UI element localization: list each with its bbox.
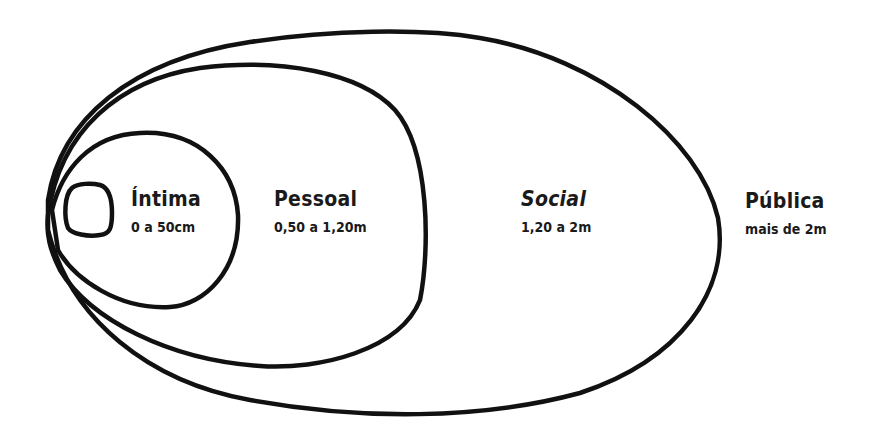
zone-title-intima: Íntima: [131, 187, 201, 211]
zone-label-publica: Pública mais de 2m: [745, 189, 836, 237]
zone-range-intima: 0 a 50cm: [131, 219, 201, 235]
self-center-shape: [65, 184, 112, 236]
zone-label-social: Social 1,20 a 2m: [521, 187, 599, 235]
zone-label-intima: Íntima 0 a 50cm: [131, 187, 209, 235]
zone-range-publica: mais de 2m: [745, 221, 827, 237]
zone-title-social: Social: [521, 187, 591, 211]
proxemics-diagram: Íntima 0 a 50cm Pessoal 0,50 a 1,20m Soc…: [0, 0, 877, 444]
zone-title-publica: Pública: [745, 189, 827, 213]
zone-label-pessoal: Pessoal 0,50 a 1,20m: [274, 187, 377, 235]
zone-title-pessoal: Pessoal: [274, 187, 367, 211]
zone-range-social: 1,20 a 2m: [521, 219, 591, 235]
zone-range-pessoal: 0,50 a 1,20m: [274, 219, 367, 235]
